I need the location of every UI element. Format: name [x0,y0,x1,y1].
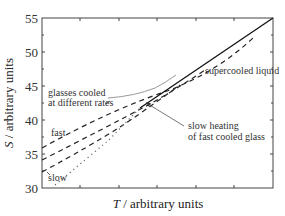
glass-curves [42,36,255,185]
annot-slow-heating-line2: of fast cooled glass [188,131,265,142]
y-tick-55: 55 [25,11,38,26]
y-tick-30: 30 [25,181,38,196]
annot-glasses-cooled-line2: at different rates [48,97,113,108]
annot-fast: fast [51,127,66,138]
annot-slow-heating-line1: slow heating [188,120,239,131]
annot-slow: slow [48,172,68,183]
x-axis-label: T / arbitrary units [113,196,204,211]
annot-slow-heating-pointer [148,104,184,126]
y-axis-label: S / arbitrary units [1,58,16,148]
entropy-temperature-chart: 55 50 45 40 35 30 T / arbitrary units S … [0,0,285,216]
y-tick-35: 35 [25,147,38,162]
glass-curve-2 [42,70,205,160]
supercooled-liquid-line [140,18,273,108]
y-tick-50: 50 [25,45,38,60]
y-tick-40: 40 [25,113,38,128]
y-tick-45: 45 [25,79,38,94]
annot-supercooled-liquid: supercooled liquid [205,65,279,76]
